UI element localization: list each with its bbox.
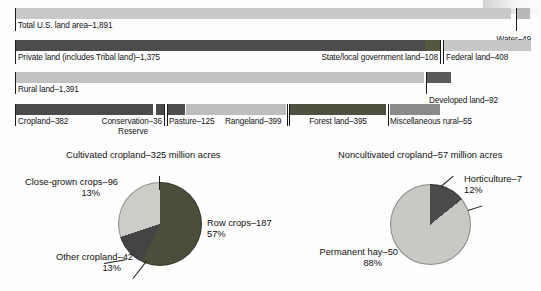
bar-segment-conservation-reserve: [156, 104, 164, 115]
pie-percent-other-cropland: 13%: [0, 263, 121, 274]
bar-label-forest-land: Forest land–395: [290, 117, 386, 127]
bar-label-miscellaneous-rural: Miscellaneous rural–55: [390, 117, 472, 127]
bar-segment-federal-land: [444, 40, 531, 51]
pie-title-cultivated-cropland: Cultivated cropland–325 million acres: [66, 150, 221, 160]
tick-developed-land: [426, 72, 427, 94]
land-use-figure: Total U.S. land area–1,891 Water–49 Priv…: [0, 0, 541, 291]
bar-segment-total-us-land: [16, 8, 511, 19]
tick-cropland: [15, 104, 16, 126]
pie-chart-group: Cultivated cropland–325 million acres Cl…: [0, 146, 541, 291]
pie-title-noncultivated-cropland: Noncultivated cropland–57 million acres: [338, 150, 502, 160]
pie-percent-permanent-hay: 88%: [284, 258, 382, 269]
leader-line-horticulture: [441, 176, 454, 187]
pie-label-horticulture: Horticulture–7: [464, 174, 522, 185]
pie-label-permanent-hay: Permanent hay–50: [284, 247, 398, 258]
tick-total-us-land: [15, 8, 16, 31]
bar-row-land-ownership: Private land (includes Tribal land)–1,37…: [0, 40, 541, 70]
bar-segment-water: [517, 8, 530, 19]
pie-percent-close-grown-crops: 13%: [0, 188, 100, 199]
pie-label-row-crops: Row crops–187: [207, 218, 272, 229]
bar-label-pasture: Pasture–125: [169, 117, 214, 127]
tick-miscellaneous-rural: [388, 104, 389, 126]
bar-label-total-us-land: Total U.S. land area–1,891: [18, 21, 112, 31]
bar-row-rural-land-detail: Cropland–382 Conservation–36 Reserve Pas…: [0, 104, 541, 146]
bar-segment-private-land: [16, 40, 425, 51]
bar-segment-cropland: [16, 104, 153, 115]
tick-rural-land: [15, 72, 16, 94]
leader-line-horticulture-lower: [468, 205, 483, 211]
bar-label-private-land: Private land (includes Tribal land)–1,37…: [18, 53, 160, 63]
bar-row-total-us-land: Total U.S. land area–1,891 Water–49: [0, 8, 541, 38]
leader-line-other-cropland: [133, 261, 147, 279]
tick-water: [516, 8, 517, 31]
pie-percent-row-crops: 57%: [207, 229, 226, 240]
bar-label-rangeland: Rangeland–399: [225, 117, 282, 127]
bar-segment-developed-land: [427, 72, 451, 83]
bar-label-federal-land: Federal land–408: [446, 53, 508, 63]
tick-state-local-land: [440, 40, 441, 64]
tick-private-land: [15, 40, 16, 64]
pie-slices-noncultivated-cropland: [390, 184, 471, 265]
bar-segment-miscellaneous-rural: [390, 104, 440, 115]
bar-segment-state-local-government-land: [425, 40, 440, 51]
bar-segment-rangeland: [186, 104, 286, 115]
bar-row-rural-vs-developed: Rural land–1,391 Developed land–92: [0, 72, 541, 104]
tick-conservation-reserve: [164, 104, 165, 126]
pie-divider-top: [159, 176, 160, 190]
pie-percent-horticulture: 12%: [464, 185, 483, 196]
bar-label-conservation-reserve: Conservation–36: [60, 117, 162, 127]
tick-pasture: [167, 104, 168, 126]
bar-segment-forest-land: [290, 104, 386, 115]
bar-segment-pasture: [168, 104, 185, 115]
bar-segment-rural-land: [16, 72, 424, 83]
bar-label-rural-land: Rural land–1,391: [18, 85, 79, 95]
tick-rangeland-end: [287, 104, 288, 126]
pie-label-other-cropland: Other cropland–42: [0, 252, 133, 263]
tick-federal-land: [443, 40, 444, 64]
stacked-bar-chart: Total U.S. land area–1,891 Water–49 Priv…: [0, 0, 541, 146]
bar-label-state-local-government-land: State/local government land–108: [300, 53, 438, 63]
bar-label-conservation-reserve-line2: Reserve: [98, 127, 168, 137]
pie-label-close-grown-crops: Close-grown crops–96: [0, 177, 118, 188]
